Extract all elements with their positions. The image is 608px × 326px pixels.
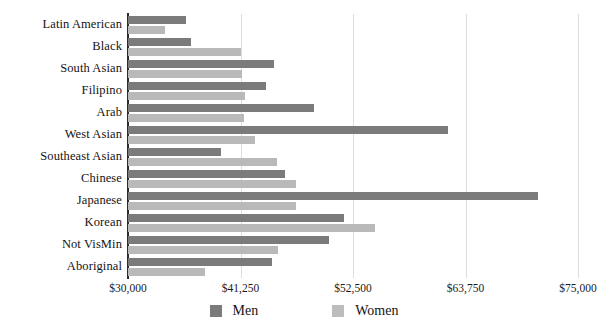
x-axis-tick-2: $52,500 (334, 282, 371, 295)
chart-legend: Men Women (0, 303, 608, 318)
x-axis-tick-3: $63,750 (447, 282, 484, 295)
bar-group (128, 14, 578, 36)
legend-item-men[interactable]: Men (210, 303, 259, 318)
bar-group (128, 234, 578, 256)
legend-item-women[interactable]: Women (332, 303, 398, 318)
bar-men-japanese (128, 192, 538, 200)
legend-swatch-women-icon (332, 305, 344, 317)
category-label-chinese: Chinese (0, 172, 122, 185)
bar-women-west-asian (128, 136, 255, 144)
bar-women-not-vismin (128, 246, 278, 254)
bar-group (128, 168, 578, 190)
category-label-west-asian: West Asian (0, 128, 122, 141)
bar-men-not-vismin (128, 236, 329, 244)
bar-women-japanese (128, 202, 296, 210)
category-label-not-vismin: Not VisMin (0, 238, 122, 251)
legend-label-men: Men (233, 303, 259, 318)
bar-women-chinese (128, 180, 296, 188)
bar-women-filipino (128, 92, 245, 100)
bar-group (128, 256, 578, 278)
bar-women-arab (128, 114, 244, 122)
bar-men-aboriginal (128, 258, 272, 266)
bar-group (128, 212, 578, 234)
bar-men-arab (128, 104, 314, 112)
bar-men-west-asian (128, 126, 448, 134)
bar-men-filipino (128, 82, 266, 90)
plot-area (128, 14, 578, 278)
legend-swatch-men-icon (210, 305, 222, 317)
bar-men-south-asian (128, 60, 274, 68)
bar-group (128, 58, 578, 80)
category-label-arab: Arab (0, 106, 122, 119)
bar-chart: Latin AmericanBlackSouth AsianFilipinoAr… (0, 0, 608, 326)
bar-group (128, 146, 578, 168)
bar-women-latin-american (128, 26, 165, 34)
bar-men-black (128, 38, 191, 46)
category-label-latin-american: Latin American (0, 18, 122, 31)
bar-men-latin-american (128, 16, 186, 24)
category-label-korean: Korean (0, 216, 122, 229)
bar-women-korean (128, 224, 375, 232)
bar-men-korean (128, 214, 344, 222)
bar-women-south-asian (128, 70, 242, 78)
x-axis-tick-4: $75,000 (559, 282, 596, 295)
category-label-aboriginal: Aboriginal (0, 260, 122, 273)
bar-women-southeast-asian (128, 158, 277, 166)
category-label-southeast-asian: Southeast Asian (0, 150, 122, 163)
bar-group (128, 80, 578, 102)
category-label-south-asian: South Asian (0, 62, 122, 75)
category-label-japanese: Japanese (0, 194, 122, 207)
category-label-filipino: Filipino (0, 84, 122, 97)
bar-men-southeast-asian (128, 148, 221, 156)
bar-group (128, 102, 578, 124)
bar-men-chinese (128, 170, 285, 178)
bar-women-aboriginal (128, 268, 205, 276)
x-axis-tick-0: $30,000 (109, 282, 146, 295)
bar-group (128, 190, 578, 212)
category-axis-labels: Latin AmericanBlackSouth AsianFilipinoAr… (0, 14, 122, 278)
legend-label-women: Women (355, 303, 398, 318)
bar-group (128, 36, 578, 58)
chart-title (0, 0, 608, 3)
x-axis-tick-1: $41,250 (222, 282, 259, 295)
category-label-black: Black (0, 40, 122, 53)
bar-women-black (128, 48, 241, 56)
gridline (578, 14, 579, 278)
bar-group (128, 124, 578, 146)
